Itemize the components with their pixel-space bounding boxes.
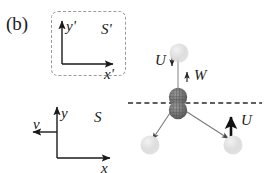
physics-figure-panel-b: (b) xyxy=(0,0,264,173)
particle-core-lower xyxy=(169,101,187,119)
lab-axis-y-label: y xyxy=(61,106,68,121)
particle-fragment-top xyxy=(170,44,189,63)
particle-fragment-lower-left xyxy=(141,136,160,155)
track-lower-left xyxy=(152,110,172,140)
primed-axis-y-label: y' xyxy=(66,19,76,34)
track-lower-right xyxy=(184,110,229,139)
particle-fragment-lower-right xyxy=(224,136,243,155)
primed-axis-x-label: x' xyxy=(104,67,114,82)
vector-layer xyxy=(0,0,264,173)
upper-u-label: U xyxy=(155,53,166,68)
lower-u-label: U xyxy=(241,113,252,128)
lab-axis-x-label: x xyxy=(101,161,108,173)
lab-velocity-label: v xyxy=(33,117,40,132)
primed-frame-name: S' xyxy=(101,22,112,37)
lab-frame-name: S xyxy=(94,110,102,125)
w-label: W xyxy=(194,68,207,83)
